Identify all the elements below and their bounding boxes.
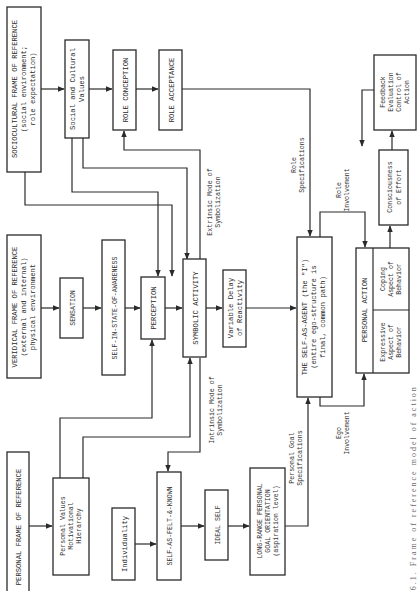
label-self-agent-1: THE SELF-AS-AGENT (the "I") <box>301 259 309 375</box>
edge-label-extrinsic-1: Extrinsic Mode of <box>207 168 214 235</box>
arrow-extrinsic-mode <box>124 131 200 259</box>
label-expressive-1: Expressive <box>380 322 387 362</box>
edge-label-extrinsic-2: Symbolization <box>215 176 222 227</box>
label-personal-action: PERSONAL ACTION <box>361 278 369 343</box>
label-role-conception: ROLE CONCEPTION <box>122 58 130 123</box>
arrow-sociocultural-to-perception <box>25 172 172 276</box>
label-feedback-3: Control of <box>396 72 403 112</box>
label-feedback-4: Action <box>404 80 411 104</box>
label-feedback-1: Feedback <box>380 76 387 108</box>
label-personal-frame: PERSONAL FRAME OF REFERENCE <box>15 469 23 585</box>
label-ideal-self: IDEAL SELF <box>215 505 222 545</box>
edge-label-ego-involvement-2: Involvement <box>344 411 351 455</box>
label-symbolic-activity: SYMBOLIC ACTIVITY <box>192 271 200 345</box>
edge-label-role-specs-2: Specifications <box>299 137 306 192</box>
label-consciousness-2: of Effort <box>396 169 403 205</box>
figure-caption: Fig. 6.1. Frame of reference model of ac… <box>409 385 417 591</box>
label-expressive-3: Behavior <box>396 326 403 358</box>
label-individuality: Individuality <box>121 515 129 572</box>
label-sociocultural-3: role expectation) <box>29 52 37 125</box>
label-personal-values-2: Motivational <box>68 502 75 550</box>
label-social-values-2: Values <box>78 76 86 102</box>
label-variable-delay-2: of Reactivity <box>236 279 244 336</box>
label-long-range-3: (aspiration level) <box>273 485 280 556</box>
label-variable-delay-1: Variable Delay <box>227 277 235 338</box>
label-sociocultural-2: (social environment; <box>20 46 28 132</box>
edge-label-goal-specs-1: Personal Goal <box>289 432 296 483</box>
label-feedback-2: Evaluation <box>388 72 395 112</box>
frame-of-reference-diagram: SOCIOCULTURAL FRAME OF REFERENCE (social… <box>0 0 417 591</box>
label-consciousness-1: Consciousness <box>387 161 394 212</box>
label-self-agent-3: final, common path) <box>319 276 327 358</box>
label-coping-3: Behavior <box>396 263 403 295</box>
label-personal-values-1: Personal Values <box>60 496 67 555</box>
label-perception: PERCEPTION <box>150 286 158 329</box>
label-self-awareness: SELF-IN-STATE-OF-AWARENESS <box>112 257 119 360</box>
label-expressive-2: Aspect of <box>388 324 395 360</box>
label-long-range-2: GOAL ORIENTATION <box>265 489 272 552</box>
label-self-agent-2: (entire ego-structure is <box>310 265 318 369</box>
label-sociocultural-1: SOCIOCULTURAL FRAME OF REFERENCE <box>11 20 19 158</box>
edge-label-intrinsic-1: Intrinsic Mode of <box>209 376 216 443</box>
label-coping-2: Aspect of <box>388 261 395 297</box>
edge-label-goal-specs-2: Specifications <box>297 430 304 485</box>
edge-label-role-involvement-1: Role <box>336 182 343 198</box>
label-veridical-2: (external and internal) <box>20 257 28 356</box>
edge-label-ego-involvement-1: Ego <box>336 427 343 439</box>
label-social-values-1: Social and Cultural <box>69 48 77 130</box>
label-veridical-3: physical environment <box>29 264 37 350</box>
label-role-acceptance: ROLE ACCEPTANCE <box>168 58 176 123</box>
edge-label-role-specs-1: Role <box>291 157 298 173</box>
label-long-range-1: LONG-RANGE PERSONAL <box>257 483 264 558</box>
label-personal-values-3: Hierarchy <box>76 508 83 544</box>
label-veridical-1: VERIDICAL FRAME OF REFERENCE <box>11 247 19 368</box>
label-coping-1: Coping <box>380 267 387 291</box>
node-consciousness-of-effort <box>379 150 408 225</box>
arrow-feedback-loop <box>362 90 374 146</box>
edge-label-intrinsic-2: Symbolization <box>217 384 224 435</box>
label-self-felt-known: SELF-AS-FELT-&-KNOWN <box>167 486 174 565</box>
arrow-intrinsic-mode <box>168 358 200 471</box>
label-sensation: SENSATION <box>70 290 77 326</box>
edge-label-role-involvement-2: Involvement <box>344 168 351 212</box>
